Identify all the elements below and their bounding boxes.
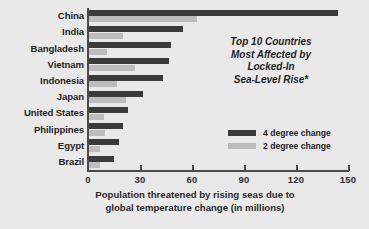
bar-2-degree [88, 162, 100, 168]
x-axis-tick [192, 165, 194, 171]
x-axis-tick [140, 165, 142, 171]
bar-chart: ChinaIndiaBangladeshVietnamIndonesiaJapa… [0, 0, 369, 229]
chart-annotation: Top 10 CountriesMost Affected byLocked-I… [196, 36, 346, 86]
bar-4-degree [88, 107, 128, 113]
x-axis-title-line: global temperature change (in millions) [40, 202, 350, 215]
bar-4-degree [88, 10, 338, 16]
bar-4-degree [88, 123, 123, 129]
category-axis-labels: ChinaIndiaBangladeshVietnamIndonesiaJapa… [0, 8, 84, 170]
bar-2-degree [88, 16, 197, 22]
bar-4-degree [88, 42, 171, 48]
bar-2-degree [88, 65, 135, 71]
annotation-line: Most Affected by [196, 49, 346, 62]
bar-2-degree [88, 130, 105, 136]
category-label: United States [0, 107, 84, 118]
bar-group [88, 8, 348, 24]
category-label: Bangladesh [0, 43, 84, 54]
y-axis-line [87, 8, 89, 171]
bar-4-degree [88, 58, 169, 64]
category-label: Japan [0, 91, 84, 102]
bar-2-degree [88, 33, 123, 39]
legend-swatch-icon [228, 130, 256, 136]
x-axis-tick [244, 165, 246, 171]
x-axis-line [87, 170, 349, 172]
bar-group [88, 105, 348, 121]
x-axis-tick-label: 120 [288, 174, 304, 185]
legend-swatch-icon [228, 143, 256, 149]
annotation-line: Sea-Level Rise* [196, 74, 346, 87]
category-label: India [0, 26, 84, 37]
x-axis-tick-label: 0 [85, 174, 90, 185]
x-axis-tick-label: 30 [135, 174, 146, 185]
chart-legend: 4 degree change2 degree change [228, 126, 353, 152]
bar-4-degree [88, 91, 143, 97]
x-axis-tick-label: 150 [340, 174, 356, 185]
bar-group [88, 89, 348, 105]
category-label: Philippines [0, 124, 84, 135]
bar-4-degree [88, 75, 163, 81]
x-axis-title: Population threatened by rising seas due… [40, 189, 350, 214]
category-label: Vietnam [0, 59, 84, 70]
category-label: Indonesia [0, 75, 84, 86]
legend-label: 4 degree change [263, 128, 331, 138]
x-axis-title-line: Population threatened by rising seas due… [40, 189, 350, 202]
x-axis-tick [348, 165, 350, 171]
bar-2-degree [88, 49, 107, 55]
x-axis-tick-label: 90 [239, 174, 250, 185]
category-label: Egypt [0, 140, 84, 151]
bar-4-degree [88, 139, 119, 145]
bar-group [88, 154, 348, 170]
bar-2-degree [88, 114, 104, 120]
bar-2-degree [88, 146, 100, 152]
annotation-line: Locked-In [196, 61, 346, 74]
legend-item: 2 degree change [228, 139, 353, 152]
x-axis-tick-label: 60 [187, 174, 198, 185]
bar-2-degree [88, 81, 117, 87]
legend-label: 2 degree change [263, 141, 331, 151]
legend-item: 4 degree change [228, 126, 353, 139]
bar-2-degree [88, 97, 126, 103]
x-axis-tick [296, 165, 298, 171]
axis-tick-origin [87, 165, 89, 171]
bar-4-degree [88, 26, 183, 32]
bar-4-degree [88, 156, 114, 162]
category-label: China [0, 10, 84, 21]
annotation-line: Top 10 Countries [196, 36, 346, 49]
category-label: Brazil [0, 156, 84, 167]
